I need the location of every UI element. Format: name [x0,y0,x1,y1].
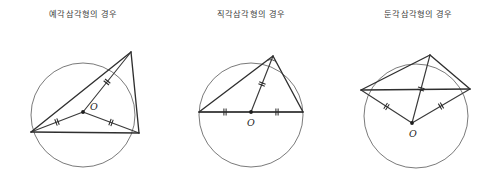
panel-right: 직각삼각형의 경우 O [167,0,335,192]
diagram-acute: O [0,0,167,192]
triangle-side-acute-BC [31,132,139,133]
triangle-side-obtuse-BC [361,89,470,90]
radius-obtuse-C [412,89,470,123]
circumcircle-right [199,63,303,167]
circumcenter-dot-acute [81,110,85,114]
panel-acute: 예각삼각형의 경우 O [0,0,167,192]
panel-obtuse: 둔각삼각형의 경우 O [335,0,502,192]
circumcenter-dot-obtuse [410,121,414,125]
triangle-side-right-CA [273,56,303,112]
triangle-side-acute-AB [31,52,131,132]
circumcenter-dot-right [249,110,253,114]
radius-acute-B [31,112,83,132]
radius-acute-C [83,112,139,133]
triangle-side-obtuse-CA [430,55,470,89]
circumcircle-acute [31,63,135,167]
circumcircle-obtuse [364,64,468,168]
circumcenter-label-right: O [247,117,255,128]
diagram-obtuse: O [335,0,502,192]
radius-obtuse-B [361,90,412,123]
triangle-side-obtuse-AB [361,55,430,90]
circumcenter-label-obtuse: O [409,128,417,139]
circumcenter-label-acute: O [90,101,98,112]
geometry-figure: 예각삼각형의 경우 O 직각삼각형의 경우 O 둔각삼각형의 경우 O [0,0,502,192]
diagram-right: O [167,0,335,192]
